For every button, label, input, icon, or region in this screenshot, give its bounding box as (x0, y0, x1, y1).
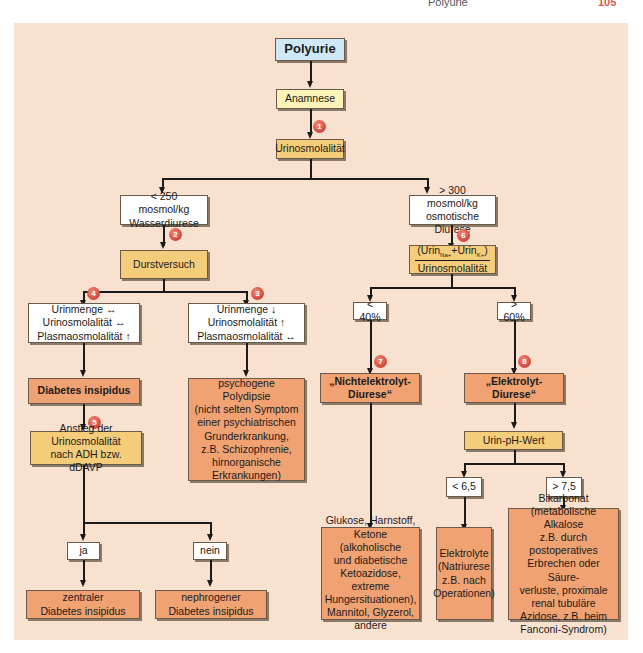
result-line: Diabetes insipidus (168, 605, 253, 618)
cause-line: andere (325, 619, 417, 632)
arrow-down-icon (207, 534, 213, 541)
cause-line: Glukose, Harnstoff, (325, 514, 417, 527)
result-line: Grunderkrankung, (193, 430, 300, 443)
urinosmolalitaet-text: Urinosmolalität (275, 142, 344, 155)
connector (464, 463, 563, 465)
elektrolyt-ratio-box: (UrinNa++UrinK+) Urinosmolalität (409, 245, 496, 274)
arrow-down-icon (80, 370, 86, 377)
connector (370, 287, 514, 289)
psychogene-polydipsie-box: psychogene Polydipsie (nicht selten Symp… (188, 378, 305, 481)
cause-line: Mannitol, Glyzerol, (325, 606, 417, 619)
connector (514, 450, 516, 463)
nichtelektrolyt-text: „Nichtelektrolyt- (329, 375, 411, 388)
title-box-polyurie: Polyurie (275, 38, 345, 61)
adh-test-line: Anstieg der Urinosmolalität (35, 422, 137, 448)
diabetes-insipidus-text: Diabetes insipidus (38, 384, 131, 397)
result-line: Diabetes insipidus (40, 605, 125, 618)
cause-line: Ketoazidose, extreme (325, 567, 417, 593)
adh-test-box: Anstieg der Urinosmolalität nach ADH bzw… (30, 431, 142, 465)
case-a-box: Urinmenge ↔ Urinosmolalität ↔ Plasmaosmo… (28, 303, 140, 343)
arrow-down-icon (307, 132, 313, 139)
result-line: Bikarbonat (513, 492, 614, 505)
arrow-down-icon (307, 81, 313, 88)
condition-text: > 300 mosmol/kg (414, 184, 491, 210)
title-text: Polyurie (284, 41, 335, 57)
anamnese-text: Anamnese (285, 92, 335, 105)
badge-7: 7 (374, 355, 387, 368)
result-line: z.B. nach (433, 574, 494, 587)
case-b-line: Urinosmolalität ↑ (197, 316, 296, 329)
result-line: verluste, proximale (513, 584, 614, 597)
case-a-line: Urinmenge ↔ (37, 303, 130, 316)
adh-test-line: nach ADH bzw. dDAVP (35, 448, 137, 474)
connector (162, 178, 427, 180)
result-line: Elektrolyte (433, 547, 494, 560)
arrow-down-icon (243, 370, 249, 377)
result-line: Fanconi-Syndrom) (513, 623, 614, 636)
connector (310, 61, 312, 81)
case-b-line: Urinmenge ↓ (197, 303, 296, 316)
durstversuch-text: Durstversuch (133, 258, 195, 271)
result-line: z.B. Schizophrenie, (193, 443, 300, 456)
wasserdiurese-box: < 250 mosmol/kg Wasserdiurese (120, 195, 208, 225)
cause-line: Ketone (alkoholische (325, 528, 417, 554)
diabetes-insipidus-box: Diabetes insipidus (28, 378, 140, 404)
urin-ph-box: Urin-pH-Wert (464, 431, 563, 450)
cause-line: Hungersituationen), (325, 593, 417, 606)
nephrogener-di-box: nephrogener Diabetes insipidus (155, 590, 267, 619)
connector (514, 320, 516, 371)
ph-low-text: < 6,5 (452, 480, 476, 493)
connector (310, 159, 312, 178)
result-line: Azidose, z.B. beim (513, 610, 614, 623)
ph-low-box: < 6,5 (446, 477, 482, 497)
page-number: 105 (598, 0, 616, 8)
zentraler-di-box: zentraler Diabetes insipidus (26, 590, 140, 619)
result-line: nephrogener (168, 591, 253, 604)
running-head: Polyurie 105 (0, 0, 643, 10)
arrow-down-icon (511, 422, 517, 429)
connector (163, 279, 165, 291)
durstversuch-box: Durstversuch (120, 250, 208, 279)
elektrolyte-result-box: Elektrolyte (Natriurese z.B. nach Operat… (436, 527, 492, 620)
condition-text: < 250 mosmol/kg (125, 190, 203, 216)
running-head-title: Polyurie (428, 0, 468, 8)
result-line: z.B. durch postoperatives (513, 531, 614, 557)
result-line: Erkrankungen) (193, 469, 300, 482)
nichtelektrolyt-text: Diurese“ (329, 388, 411, 401)
anamnese-box: Anamnese (276, 89, 344, 109)
elektrolyt-text: „Elektrolyt-Diurese“ (469, 375, 559, 401)
badge-3: 3 (251, 287, 264, 300)
connector (246, 343, 248, 373)
nichtelektrolyt-causes-box: Glukose, Harnstoff, Ketone (alkoholische… (321, 527, 420, 620)
result-line: Operationen) (433, 587, 494, 600)
arrow-down-icon (207, 580, 213, 587)
badge-2: 2 (169, 228, 182, 241)
cause-line: und diabetische (325, 554, 417, 567)
connector (464, 497, 466, 527)
connector (83, 522, 210, 524)
badge-4: 4 (87, 287, 100, 300)
badge-6: 6 (457, 229, 470, 242)
arrow-down-icon (160, 242, 166, 249)
result-line: zentraler (40, 591, 125, 604)
nein-text: nein (200, 544, 220, 557)
result-line: renal tubuläre (513, 597, 614, 610)
elektrolyt-diurese-box: „Elektrolyt-Diurese“ (464, 373, 564, 403)
result-line: Erbrechen oder Säure- (513, 557, 614, 583)
arrow-down-icon (80, 580, 86, 587)
case-b-line: Plasmaosmolalität ↔ (197, 330, 296, 343)
ratio-high-box: > 60% (497, 302, 531, 320)
nichtelektrolyt-diurese-box: „Nichtelektrolyt- Diurese“ (320, 373, 420, 403)
case-b-box: Urinmenge ↓ Urinosmolalität ↑ Plasmaosmo… (188, 303, 305, 343)
connector (83, 343, 85, 373)
ja-text: ja (79, 544, 87, 557)
bikarbonat-result-box: Bikarbonat (metabolische Alkalose z.B. d… (508, 508, 619, 620)
ja-box: ja (67, 542, 100, 560)
condition-label: osmotische Diurese (414, 210, 491, 236)
result-line: (metabolische Alkalose (513, 505, 614, 531)
result-line: psychogene Polydipsie (193, 377, 300, 403)
osmotische-diurese-box: > 300 mosmol/kg osmotische Diurese (409, 195, 496, 225)
ratio-numerator: (UrinNa++UrinK+) (415, 244, 489, 262)
urinosmolalitaet-box: Urinosmolalität (276, 139, 344, 159)
result-line: hirnorganische (193, 456, 300, 469)
